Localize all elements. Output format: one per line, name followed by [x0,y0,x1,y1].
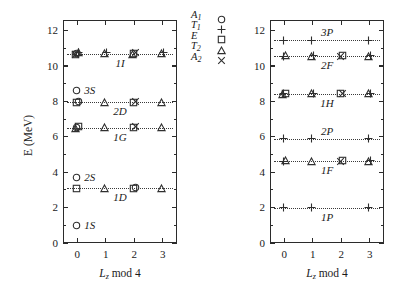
x-axis-tick [284,238,285,243]
energy-level-line [274,94,380,95]
legend-item-e: E [191,30,253,41]
x-axis-tick-label: 3 [362,249,378,260]
y-axis-tick [270,30,275,31]
x-axis-tick [369,238,370,243]
x-axis-tick-label: 2 [333,249,349,260]
energy-level-line [274,161,380,162]
y-axis-minor-tick [381,154,384,155]
y-axis-tick-label: 0 [244,238,265,249]
x-axis-title: Lz mod 4 [293,267,361,281]
energy-level-line [274,56,380,57]
energy-level-line [274,40,380,41]
cross-icon [217,51,226,69]
legend-item-a1: A1 [191,9,253,20]
y-axis-minor-tick [270,119,273,120]
y-axis-tick [379,65,384,66]
y-axis-minor-tick [270,154,273,155]
y-axis-tick [379,30,384,31]
y-axis-minor-tick [381,119,384,120]
y-axis-minor-tick [381,83,384,84]
energy-level-label: 1H [312,97,342,109]
legend-item-a2: A2 [191,51,253,62]
energy-level-label: 2F [312,59,342,71]
y-axis-tick [379,101,384,102]
x-axis-title-rest: mod 4 [316,267,348,279]
y-axis-tick [270,172,275,173]
y-axis-tick [379,136,384,137]
x-axis-tick [312,238,313,243]
y-axis-tick [379,172,384,173]
energy-level-label: 1P [312,211,342,223]
energy-level-label: 1F [312,164,342,176]
y-axis-tick [270,101,275,102]
energy-level-line [274,208,380,209]
legend-label-subscript: 2 [197,55,201,64]
legend-item-t2: T2 [191,40,253,51]
x-axis-tick-label: 0 [276,249,292,260]
y-axis-tick-label: 4 [244,167,265,178]
x-axis-tick [341,20,342,25]
y-axis-minor-tick [270,225,273,226]
energy-level-figure: 0246810120123Lz mod 4E (MeV)1I3S2D1G2S1D… [0,0,400,290]
y-axis-minor-tick [381,48,384,49]
x-axis-tick [341,238,342,243]
x-axis-tick [369,20,370,25]
x-axis-tick [284,20,285,25]
y-axis-tick [270,242,275,243]
y-axis-tick [270,136,275,137]
legend-label: A2 [191,51,201,64]
y-axis-tick-label: 8 [244,96,265,107]
y-axis-minor-tick [381,225,384,226]
legend: A1T1ET2A2 [191,9,253,65]
y-axis-tick-label: 2 [244,202,265,213]
x-axis-tick-label: 1 [305,249,321,260]
y-axis-minor-tick [270,189,273,190]
x-axis-tick [312,20,313,25]
energy-level-label: 3P [312,26,342,38]
legend-label-symbol: E [191,30,197,41]
y-axis-tick [270,65,275,66]
y-axis-minor-tick [270,83,273,84]
energy-level-label: 2P [312,125,342,137]
y-axis-tick-label: 6 [244,131,265,142]
legend-item-t1: T1 [191,19,253,30]
y-axis-minor-tick [381,189,384,190]
energy-level-line [274,139,380,140]
y-axis-tick [379,242,384,243]
y-axis-minor-tick [270,48,273,49]
